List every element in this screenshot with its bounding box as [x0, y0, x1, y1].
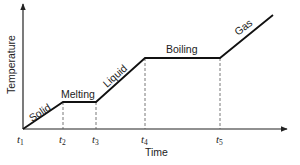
phase-change-diagram: Solid Melting Liquid Boiling Gas Tempera… — [0, 0, 300, 165]
label-solid: Solid — [27, 101, 53, 124]
tick-t2: t2 — [59, 133, 66, 147]
tick-t3: t3 — [92, 133, 99, 147]
x-axis-label: Time — [145, 146, 168, 158]
tick-t4: t4 — [141, 133, 148, 147]
y-axis-label: Temperature — [5, 35, 17, 94]
label-melting: Melting — [61, 88, 95, 100]
label-gas: Gas — [232, 16, 255, 37]
tick-t5: t5 — [216, 133, 223, 147]
label-boiling: Boiling — [166, 43, 198, 55]
tick-t1: t1 — [17, 133, 24, 147]
